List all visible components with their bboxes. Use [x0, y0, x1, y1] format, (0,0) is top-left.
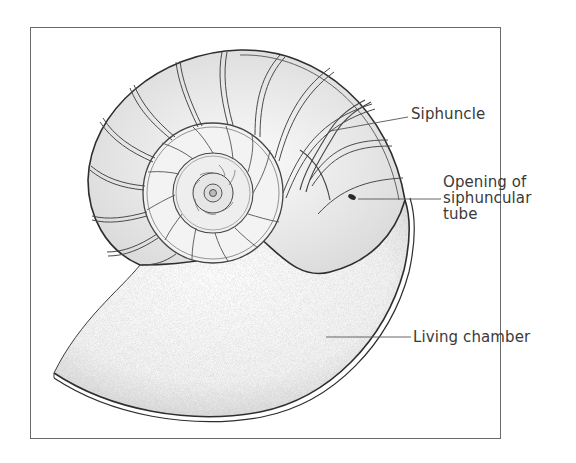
chambered-spiral	[88, 50, 405, 274]
label-opening-of-siphuncular-tube: Opening of siphuncular tube	[443, 174, 573, 222]
label-living-chamber: Living chamber	[413, 329, 530, 345]
label-siphuncle: Siphuncle	[411, 106, 485, 122]
label-opening-line-1: Opening of	[443, 174, 573, 190]
label-opening-line-3: tube	[443, 206, 573, 222]
label-opening-line-2: siphuncular	[443, 190, 573, 206]
nautilus-shell-illustration	[0, 0, 576, 463]
